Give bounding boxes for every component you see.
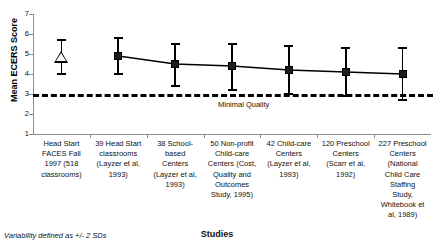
data-point-marker[interactable] (228, 62, 236, 70)
x-axis-label-line: (Layzer et al, (260, 159, 317, 169)
x-tick (204, 134, 205, 138)
data-point-marker[interactable] (171, 60, 179, 68)
x-axis-label-line: Centers (Cost, (204, 159, 261, 169)
x-axis-label-line: (Layzer et al, (147, 170, 204, 180)
x-axis-label-line: classrooms) (33, 170, 90, 180)
x-tick (90, 134, 91, 138)
x-axis-labels: Head StartFACES Fall1997 (518classrooms)… (33, 139, 431, 229)
y-tick-label: 2 (15, 110, 29, 118)
x-axis-label-line: 38 School- (147, 139, 204, 149)
error-bar-cap (171, 43, 180, 45)
x-axis-label-line: based (147, 149, 204, 159)
error-bar-cap (57, 73, 66, 75)
y-tick-label: 1 (15, 130, 29, 138)
x-axis-label-line: 50 Non-profit (204, 139, 261, 149)
minimal-quality-label: Minimal Quality (218, 100, 269, 109)
x-tick (374, 134, 375, 138)
error-bar-cap (228, 43, 237, 45)
y-tick-label: 4 (15, 70, 29, 78)
error-bar-cap (114, 73, 123, 75)
data-point-marker[interactable] (114, 52, 122, 60)
x-axis-label: 42 Child-careCenters(Layzer et al,1993) (260, 139, 317, 180)
error-bar-cap (114, 37, 123, 39)
error-bar-cap (398, 47, 407, 49)
x-axis-label-line: FACES Fall (33, 149, 90, 159)
error-bar-cap (398, 99, 407, 101)
x-axis-label-line: Outcomes (204, 180, 261, 190)
x-axis-label-line: al, 1989) (374, 210, 431, 220)
x-axis-label-line: 1992) (317, 170, 374, 180)
data-point-marker[interactable] (54, 51, 68, 63)
x-tick (147, 134, 148, 138)
x-axis-label: Head StartFACES Fall1997 (518classrooms) (33, 139, 90, 180)
x-axis-label-line: Child-care (204, 149, 261, 159)
x-axis-title: Studies (0, 229, 434, 239)
x-axis-label-line: 120 Preschool (317, 139, 374, 149)
error-bar-cap (341, 47, 350, 49)
x-tick (317, 134, 318, 138)
error-bar-cap (228, 89, 237, 91)
x-axis-label-line: 227 Preschool (374, 139, 431, 149)
y-tick-label: 7 (15, 10, 29, 18)
data-point-marker[interactable] (285, 66, 293, 74)
plot-area: 1234567 Minimal Quality (33, 14, 431, 134)
x-axis-label-line: Study, (374, 190, 431, 200)
error-bar-cap (284, 45, 293, 47)
x-axis-label-line: (Scarr et al, (317, 159, 374, 169)
x-axis-label: 120 PreschoolCenters(Scarr et al,1992) (317, 139, 374, 180)
x-axis-label-line: 1993) (147, 180, 204, 190)
y-tick-label: 3 (15, 90, 29, 98)
y-tick-label: 6 (15, 30, 29, 38)
x-axis-label-line: classrooms (90, 149, 147, 159)
x-axis-label-line: Centers (147, 159, 204, 169)
x-axis-label: 50 Non-profitChild-careCenters (Cost,Qua… (204, 139, 261, 200)
error-bar-cap (57, 39, 66, 41)
x-axis-label-line: Centers (260, 149, 317, 159)
error-bar-cap (171, 85, 180, 87)
x-axis-label-line: 1993) (260, 170, 317, 180)
x-axis-label-line: Quality and (204, 170, 261, 180)
x-axis-label-line: 1993) (90, 170, 147, 180)
x-axis-label: 227 PreschoolCenters(NationalChild CareS… (374, 139, 431, 221)
x-axis-label-line: 1997 (518 (33, 159, 90, 169)
y-tick-label: 5 (15, 50, 29, 58)
x-axis-label-line: Staffing (374, 180, 431, 190)
x-axis-label-line: Whitebook et (374, 200, 431, 210)
x-axis-label-line: Centers (317, 149, 374, 159)
data-point-marker[interactable] (342, 68, 350, 76)
chart-container: Mean ECERS Score 1234567 Minimal Quality… (0, 0, 434, 250)
x-axis-label-line: Study, 1995) (204, 190, 261, 200)
y-tick (29, 134, 33, 135)
minimal-quality-threshold-line (33, 94, 433, 97)
x-axis-label-line: (National (374, 159, 431, 169)
x-axis-line (33, 134, 431, 135)
x-axis-label-line: Child Care (374, 170, 431, 180)
x-tick (260, 134, 261, 138)
x-axis-label-line: 42 Child-care (260, 139, 317, 149)
x-axis-label: 38 School-basedCenters(Layzer et al,1993… (147, 139, 204, 190)
x-axis-label-line: Head Start (33, 139, 90, 149)
x-axis-label-line: (Layzer et al, (90, 159, 147, 169)
data-point-marker[interactable] (399, 70, 407, 78)
x-axis-label-line: Centers (374, 149, 431, 159)
data-point-marker-fill (56, 53, 66, 61)
x-axis-label: 39 Head Startclassrooms(Layzer et al,199… (90, 139, 147, 180)
x-axis-label-line: 39 Head Start (90, 139, 147, 149)
